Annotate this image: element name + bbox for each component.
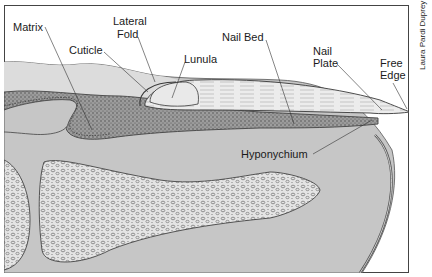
label-nail-bed: Nail Bed: [222, 31, 264, 43]
image-credit: Laura Pardi Duprey: [418, 1, 427, 70]
label-nail-plate-line2: Plate: [313, 57, 338, 69]
label-free-edge-line2: Edge: [380, 69, 406, 81]
label-matrix: Matrix: [13, 21, 43, 33]
nail-anatomy-diagram: Matrix Lateral Fold Cuticle Lunula Nail …: [0, 0, 432, 277]
label-lateral-fold-line1: Lateral: [113, 15, 147, 27]
label-hyponychium: Hyponychium: [241, 148, 308, 160]
label-free-edge-line1: Free: [380, 57, 403, 69]
label-lateral-fold-line2: Fold: [117, 28, 138, 40]
label-lunula: Lunula: [184, 53, 218, 65]
label-cuticle: Cuticle: [69, 44, 103, 56]
label-nail-plate-line1: Nail: [313, 45, 332, 57]
